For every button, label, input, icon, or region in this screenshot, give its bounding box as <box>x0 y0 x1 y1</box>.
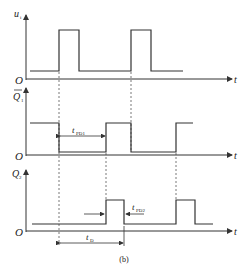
figure-caption: (b) <box>119 255 129 264</box>
tpd2-label-sub: PD2 <box>136 208 145 213</box>
timing-diagram: u i O t Q 1 O t t PD1 Q 2 O t t PD2 t D … <box>0 0 241 273</box>
ui-waveform <box>30 30 183 71</box>
q2-axes <box>26 170 232 232</box>
q1bar-label: Q <box>13 91 21 102</box>
t-label-2: t <box>234 150 237 161</box>
q1bar-label-sub: 1 <box>21 98 24 103</box>
origin-label-2: O <box>15 150 23 162</box>
ui-label-sub: i <box>20 15 22 20</box>
q1bar-axes <box>26 88 232 156</box>
t-label-3: t <box>234 226 237 237</box>
q2-label-sub: 2 <box>19 175 22 180</box>
ui-label: u <box>14 8 19 19</box>
tpd2-label: t <box>132 202 135 212</box>
origin-label-3: O <box>15 226 23 238</box>
origin-label-1: O <box>15 74 23 86</box>
tpd1-label: t <box>72 125 75 135</box>
t-label-1: t <box>234 74 237 85</box>
ui-axes <box>26 15 232 80</box>
td-label: t <box>86 232 89 242</box>
dashed-guides <box>59 72 176 245</box>
td-label-sub: D <box>90 238 94 243</box>
q1bar-waveform <box>30 123 193 152</box>
tpd1-label-sub: PD1 <box>76 131 85 136</box>
